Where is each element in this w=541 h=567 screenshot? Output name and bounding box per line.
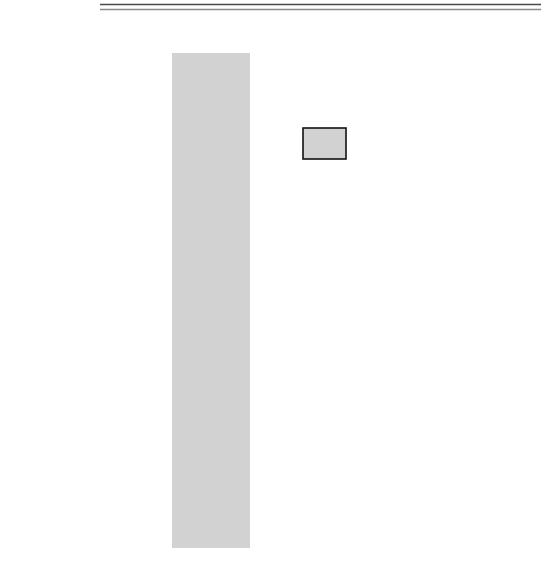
header-rule: [100, 5, 541, 10]
address-tenure-shaded-band: [172, 53, 250, 548]
address-tenure-swatch: [303, 128, 346, 159]
timing-diagram-svg: [0, 0, 541, 567]
legend: [303, 128, 346, 159]
timing-diagram: [0, 0, 541, 567]
